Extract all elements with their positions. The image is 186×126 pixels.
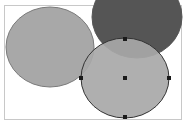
- resize-handle[interactable]: [123, 37, 127, 41]
- drawing-canvas[interactable]: [0, 0, 186, 126]
- resize-handle[interactable]: [123, 115, 127, 119]
- resize-handle[interactable]: [167, 76, 171, 80]
- center-handle[interactable]: [123, 76, 127, 80]
- resize-handle[interactable]: [79, 76, 83, 80]
